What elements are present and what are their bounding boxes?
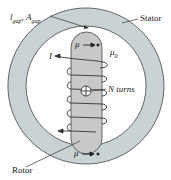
mu0-subscript: 0: [115, 53, 118, 59]
gap-area-subscript: gap: [32, 18, 41, 24]
current-label: I: [49, 52, 52, 61]
flux-into-page-icon: [81, 86, 91, 96]
rotor-permeability-label: μ: [75, 40, 80, 49]
gap-label: lgap, Agap: [10, 13, 41, 24]
turns-label: N turns: [108, 85, 135, 94]
gap-length-subscript: gap: [13, 18, 22, 24]
turns-text: N turns: [108, 84, 135, 94]
diagram-graphics: [0, 0, 171, 180]
magnetic-circuit-diagram: lgap, Agap Stator Rotor I N turns μ μ0 μ: [0, 0, 171, 180]
stator-label: Stator: [140, 14, 162, 23]
rotor-label: Rotor: [12, 166, 33, 175]
air-permeability-label: μ0: [110, 48, 118, 59]
stator-permeability-label: μ: [74, 149, 79, 158]
